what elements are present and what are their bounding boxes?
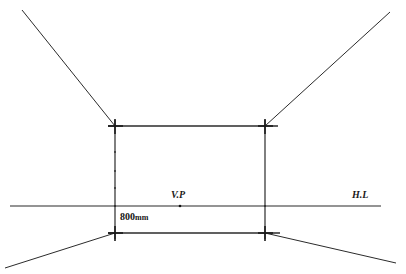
perspective-construction-svg xyxy=(0,0,406,274)
vanishing-point-label: V.P xyxy=(171,189,185,200)
tick-dot xyxy=(264,205,266,207)
vanishing-point-dot xyxy=(179,205,182,208)
receding-line-upper-left xyxy=(22,10,115,126)
tick-dot xyxy=(114,187,116,189)
tick-dot xyxy=(114,170,116,172)
dimension-label: 800mm xyxy=(120,211,148,222)
corner-cross-mark-bottom-right xyxy=(258,226,273,241)
dimension-value: 800 xyxy=(120,211,135,222)
tick-dot xyxy=(114,151,116,153)
corner-cross-mark-top-left xyxy=(108,119,123,134)
dimension-unit: mm xyxy=(135,213,148,222)
receding-line-upper-right xyxy=(265,12,390,126)
corner-cross-mark-bottom-left xyxy=(108,226,123,241)
perspective-drawing-canvas: V.P H.L 800mm xyxy=(0,0,406,274)
horizon-line-label: H.L xyxy=(352,189,368,200)
receding-line-lower-right xyxy=(265,233,396,263)
tick-dot xyxy=(114,205,116,207)
receding-line-lower-left xyxy=(5,233,115,268)
